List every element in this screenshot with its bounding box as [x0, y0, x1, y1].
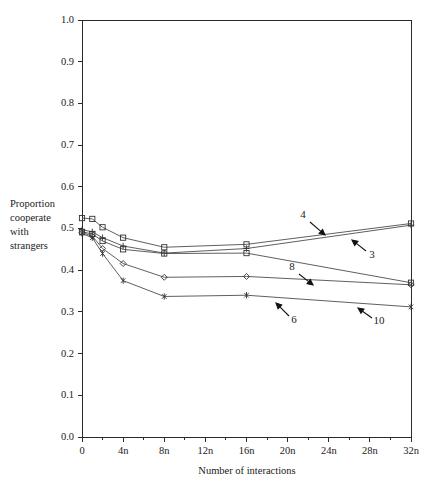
y-axis-title-line: cooperate — [10, 212, 51, 223]
y-tick-label: 0.3 — [61, 306, 74, 317]
x-tick-label: 0 — [79, 445, 84, 456]
y-tick-label: 0.1 — [61, 389, 74, 400]
y-tick-label: 0.7 — [61, 139, 74, 150]
x-tick-label: 20n — [280, 445, 297, 456]
x-tick-label: 28n — [362, 445, 379, 456]
x-tick-label: 32n — [403, 445, 420, 456]
annotation-label-4: 4 — [300, 208, 306, 220]
y-axis-title-line: strangers — [10, 240, 48, 251]
annotation-label-6: 6 — [291, 313, 297, 325]
y-axis-title-line: with — [10, 226, 29, 237]
y-tick-label: 0.6 — [61, 181, 74, 192]
y-tick-label: 0.5 — [61, 222, 74, 233]
y-tick-label: 0.9 — [61, 56, 74, 67]
annotation-label-8: 8 — [289, 260, 295, 272]
x-tick-label: 24n — [321, 445, 338, 456]
y-tick-label: 1.0 — [61, 14, 74, 25]
annotation-label-10: 10 — [374, 314, 386, 326]
chart-figure: 0.00.10.20.30.40.50.60.70.80.91.0 04n8n1… — [0, 0, 429, 492]
y-tick-label: 0.2 — [61, 348, 74, 359]
x-tick-label: 4n — [118, 445, 129, 456]
x-tick-label: 16n — [239, 445, 256, 456]
x-tick-label: 8n — [159, 445, 170, 456]
y-tick-label: 0.0 — [61, 431, 74, 442]
line-chart-canvas: 0.00.10.20.30.40.50.60.70.80.91.0 04n8n1… — [0, 0, 429, 492]
x-tick-label: 12n — [198, 445, 215, 456]
chart-background — [0, 0, 429, 492]
y-tick-label: 0.8 — [61, 97, 74, 108]
y-tick-label: 0.4 — [61, 264, 75, 275]
annotation-label-3: 3 — [369, 248, 375, 260]
x-axis-title: Number of interactions — [198, 465, 295, 476]
y-axis-title-line: Proportion — [10, 198, 56, 209]
